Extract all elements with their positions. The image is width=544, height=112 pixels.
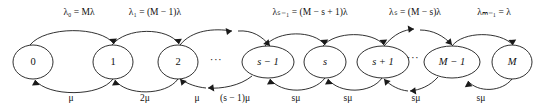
state-label: s [323, 56, 327, 67]
arc-path [270, 78, 325, 90]
state-node-s−1[interactable]: s − 1 [242, 46, 294, 78]
death-rate-label-mu7: sμ [412, 93, 421, 103]
arrowhead-icon [208, 84, 214, 91]
state-label: M [507, 56, 518, 67]
birth-rate-label-lambda0: λ₀ = Mλ [63, 7, 94, 17]
death-rate-labels: μ2μμ(s − 1)μsμsμsμsμ [68, 93, 485, 104]
state-label: s − 1 [257, 56, 279, 67]
death-rate-label-mu4: (s − 1)μ [220, 93, 250, 104]
death-rate-label-mu2: 2μ [140, 93, 150, 103]
death-arc-ssp1-to-ss [325, 78, 382, 90]
arrowhead-icon [408, 26, 414, 33]
state-node-M−1[interactable]: M − 1 [424, 46, 480, 78]
birth-rate-labels: λ₀ = Mλλ₁ = (M − 1)λλₛ₋₁ = (M − s + 1)λλ… [63, 7, 511, 18]
arc-path [328, 78, 382, 90]
birth-transition-arcs [30, 26, 516, 46]
arc-path [35, 79, 113, 93]
death-arc-ss-to-ssm1 [267, 78, 325, 90]
birth-rate-label-lambdasm1: λₛ₋₁ = (M − s + 1)λ [272, 7, 347, 18]
birth-arc-gap2-to-sMm1 [420, 30, 452, 45]
arc-path [468, 79, 512, 89]
state-node-2[interactable]: 2 [158, 45, 198, 79]
death-arc-gap2-to-ssp1 [384, 79, 408, 91]
death-arc-sMm1-to-gap2 [410, 77, 438, 94]
state-label: s + 1 [372, 56, 394, 67]
state-node-1[interactable]: 1 [93, 45, 133, 79]
ellipsis-gap1: ··· [210, 53, 223, 65]
birth-arc-sMm1-to-sM [452, 35, 516, 46]
ellipsis-gap2: ··· [407, 51, 420, 63]
death-arc-gap1-to-s2 [180, 79, 206, 88]
state-transition-svg: 012s − 1ss + 1M − 1M ······ λ₀ = Mλλ₁ = … [0, 0, 544, 112]
state-label: 1 [110, 56, 115, 67]
birth-arc-s2-to-gap1 [180, 28, 232, 45]
arc-path [452, 35, 513, 46]
birth-arc-s1-to-s2 [112, 31, 182, 45]
birth-arc-s0-to-s1 [30, 31, 117, 45]
arc-path [115, 79, 178, 92]
state-nodes: 012s − 1ss + 1M − 1M [13, 45, 532, 79]
death-rate-label-mu6: sμ [344, 93, 353, 103]
arrowhead-icon [226, 28, 232, 35]
state-label: 0 [30, 56, 35, 67]
birth-arc-gap1-to-ssm1 [238, 31, 270, 46]
death-transition-arcs [32, 76, 512, 94]
death-arc-sM-to-sMm1 [465, 79, 512, 89]
death-rate-label-mu1: μ [68, 93, 73, 103]
state-node-M[interactable]: M [492, 45, 532, 79]
birth-arc-ss-to-ssp1 [323, 35, 387, 46]
birth-arc-ssm1-to-ss [265, 34, 328, 46]
state-node-s+1[interactable]: s + 1 [357, 46, 409, 78]
birth-arc-ssp1-to-gap2 [384, 26, 414, 46]
arc-path [112, 31, 179, 45]
arc-path [180, 30, 232, 45]
state-label: M − 1 [438, 56, 465, 67]
death-rate-label-mu3: μ [194, 93, 199, 103]
birth-rate-label-lambdas: λₛ = (M − s)λ [389, 7, 441, 18]
state-label: 2 [175, 56, 180, 67]
arrowhead-icon [384, 79, 391, 86]
arc-path [30, 31, 114, 45]
death-arc-s2-to-s1 [112, 79, 178, 92]
state-node-s[interactable]: s [304, 46, 346, 78]
arc-path [323, 35, 384, 46]
markov-chain-diagram: 012s − 1ss + 1M − 1M ······ λ₀ = Mλλ₁ = … [0, 0, 544, 112]
birth-rate-label-lambda1: λ₁ = (M − 1)λ [129, 7, 182, 18]
birth-rate-label-lambdaMm1: λₘ₋₁ = λ [477, 7, 511, 17]
death-arc-ssm1-to-gap1 [208, 76, 252, 91]
arc-path [265, 34, 325, 46]
death-arc-s1-to-s0 [32, 79, 113, 93]
state-node-0[interactable]: 0 [13, 45, 53, 79]
death-rate-label-mu8: sμ [477, 93, 486, 103]
death-rate-label-mu5: sμ [292, 93, 301, 103]
arc-path [208, 76, 252, 88]
